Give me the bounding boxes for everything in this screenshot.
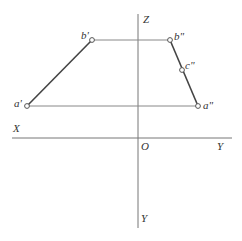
- label-a-double-prime: a": [203, 99, 214, 111]
- point-c-double-prime: [180, 68, 185, 73]
- axis-label-z: Z: [143, 13, 150, 25]
- axis-label-y-right: Y: [217, 140, 225, 152]
- point-b-prime: [90, 38, 95, 43]
- axis-label-origin: O: [141, 140, 149, 152]
- point-b-double-prime: [168, 38, 173, 43]
- axis-label-x: X: [12, 122, 21, 134]
- label-b-double-prime: b": [174, 30, 185, 42]
- point-a-prime: [25, 104, 30, 109]
- point-a-double-prime: [196, 104, 201, 109]
- label-c-double-prime: c": [185, 59, 195, 71]
- edge-a-prime-b-prime: [27, 40, 92, 106]
- label-a-prime: a': [14, 97, 23, 109]
- axis-label-y-bottom: Y: [141, 212, 149, 224]
- projection-diagram: a' b' b" c" a" Z X O Y Y: [0, 0, 242, 241]
- edge-b-double-prime-a-double-prime: [170, 40, 198, 106]
- label-b-prime: b': [81, 29, 90, 41]
